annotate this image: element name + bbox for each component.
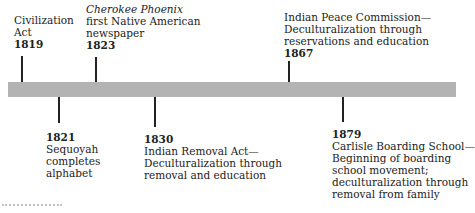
event-text: Indian Peace Commission—	[284, 11, 431, 23]
event-text: Civilization	[14, 14, 74, 26]
tick-1867	[288, 61, 290, 82]
event-text: alphabet	[46, 167, 100, 179]
event-text: deculturalization through	[332, 176, 475, 188]
tick-1821	[58, 97, 60, 123]
event-1867-label: Indian Peace Commission— Deculturalizati…	[284, 11, 431, 59]
event-year: 1823	[86, 39, 201, 51]
event-text: Indian Removal Act—	[144, 145, 282, 157]
event-1830-label: 1830 Indian Removal Act— Deculturalizati…	[144, 133, 282, 181]
event-1819-label: Civilization Act 1819	[14, 14, 74, 50]
event-text: Act	[14, 26, 74, 38]
cropped-text-fragment	[2, 204, 62, 210]
event-text: newspaper	[86, 27, 201, 39]
event-text: reservations and education	[284, 35, 431, 47]
event-text: Deculturalization through	[284, 23, 431, 35]
event-1823-label: Cherokee Phoenix first Native American n…	[86, 3, 201, 51]
event-title-italic: Cherokee Phoenix	[86, 3, 201, 15]
event-year: 1867	[284, 47, 431, 59]
event-year: 1879	[332, 128, 475, 140]
event-text: school movement;	[332, 164, 475, 176]
tick-1830	[154, 97, 156, 127]
event-1879-label: 1879 Carlisle Boarding School— Beginning…	[332, 128, 475, 200]
timeline-bar	[8, 82, 456, 97]
event-year: 1821	[46, 131, 100, 143]
tick-1823	[95, 57, 97, 82]
event-year: 1830	[144, 133, 282, 145]
event-1821-label: 1821 Sequoyah completes alphabet	[46, 131, 100, 179]
event-text: completes	[46, 155, 100, 167]
event-text: Beginning of boarding	[332, 152, 475, 164]
event-text: removal and education	[144, 169, 282, 181]
event-text: first Native American	[86, 15, 201, 27]
event-text: Carlisle Boarding School—	[332, 140, 475, 152]
event-year: 1819	[14, 38, 74, 50]
event-text: Deculturalization through	[144, 157, 282, 169]
tick-1819	[21, 56, 23, 82]
event-text: removal from family	[332, 188, 475, 200]
event-text: Sequoyah	[46, 143, 100, 155]
tick-1879	[342, 97, 344, 122]
